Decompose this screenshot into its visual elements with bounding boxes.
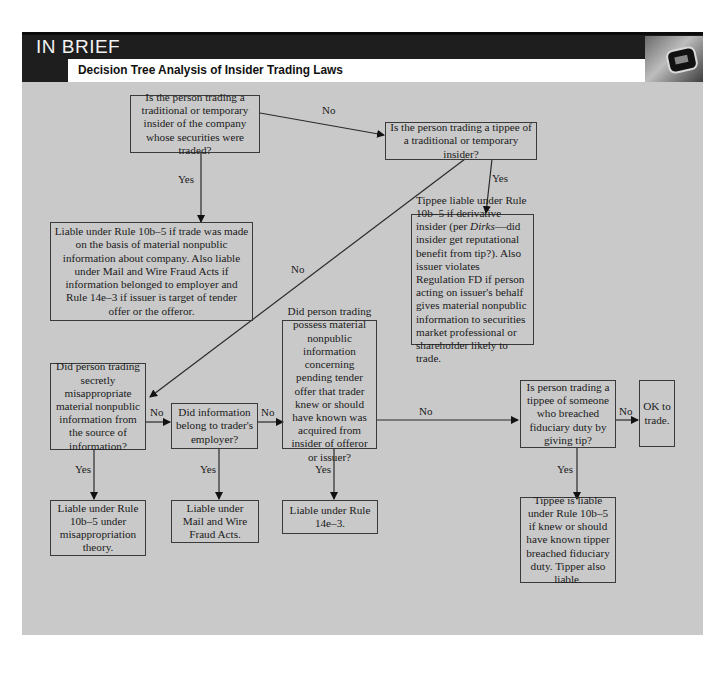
tippee-text-post: —did insider get reputational benefit fr… [416, 220, 527, 364]
edge-label: Yes [557, 463, 573, 475]
node-r-insider-liable: Liable under Rule 10b–5 if trade was mad… [50, 222, 253, 321]
node-q-insider: Is the person trading a traditional or t… [130, 95, 260, 153]
edge-insider-no [260, 113, 384, 135]
edge-label: No [419, 405, 432, 417]
edge-label: No [261, 406, 274, 418]
node-r-14e3: Liable under Rule 14e–3. [282, 500, 378, 534]
node-q-employer: Did information belong to trader's emplo… [171, 403, 258, 449]
edge-label: Yes [492, 172, 508, 184]
node-text: Is the person trading a tippee of a trad… [389, 121, 533, 161]
node-q-misappropriate: Did person trading secretly misappropria… [50, 363, 146, 450]
node-text: Did person trading possess material nonp… [286, 305, 373, 463]
node-text: Liable under Rule 14e–3. [286, 504, 374, 530]
node-text: Did person trading secretly misappropria… [54, 360, 142, 452]
node-q-tippee: Is the person trading a tippee of a trad… [385, 122, 537, 160]
edge-label: Yes [75, 463, 91, 475]
node-text: Tippee liable under Rule 10b–5 if deriva… [416, 194, 530, 366]
edge-label: No [322, 104, 335, 116]
node-text: Tippee is liable under Rule 10b–5 if kne… [524, 494, 612, 586]
node-r-mail-wire: Liable under Mail and Wire Fraud Acts. [171, 500, 259, 543]
node-text: Liable under Rule 10b–5 if trade was mad… [54, 225, 249, 317]
node-r-tippee-liable: Tippee liable under Rule 10b–5 if deriva… [411, 214, 534, 345]
node-text: OK to trade. [643, 400, 671, 426]
node-r-misappropriation: Liable under Rule 10b–5 under misappropr… [50, 500, 146, 556]
case-name: Dirks [470, 220, 495, 232]
edge-label: No [291, 263, 304, 275]
edge-label: No [150, 406, 163, 418]
edge-label: Yes [315, 463, 331, 475]
node-q-breach-tippee: Is person trading a tippee of someone wh… [520, 380, 616, 448]
node-text: Liable under Rule 10b–5 under misappropr… [54, 502, 142, 555]
node-text: Did information belong to trader's emplo… [175, 406, 254, 446]
node-text: Is person trading a tippee of someone wh… [524, 381, 612, 447]
edge-label: Yes [178, 173, 194, 185]
node-text: Is the person trading a traditional or t… [134, 91, 256, 157]
node-r-ok: OK to trade. [639, 380, 675, 447]
edge-label: Yes [200, 463, 216, 475]
node-r-breach-tippee: Tippee is liable under Rule 10b–5 if kne… [520, 497, 616, 583]
node-text: Liable under Mail and Wire Fraud Acts. [175, 502, 255, 542]
edge-label: No [619, 405, 632, 417]
node-q-tender: Did person trading possess material nonp… [282, 320, 377, 449]
